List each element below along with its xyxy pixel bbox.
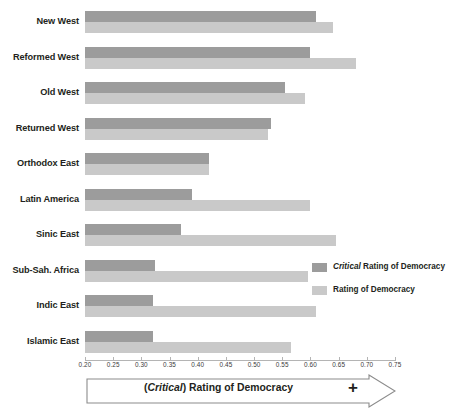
category-label: Returned West [1,123,79,134]
category-label: Old West [1,87,79,98]
bar-critical [85,189,192,200]
x-axis: 0.200.250.300.350.400.450.500.550.600.65… [85,357,396,373]
x-axis-tick-label: 0.50 [248,361,261,368]
category-axis-labels: New WestReformed WestOld WestReturned We… [0,0,79,355]
bar-rating [85,306,316,317]
bar-group [85,189,395,211]
bar-group [85,153,395,175]
x-axis-tick-label: 0.45 [219,361,232,368]
bar-critical [85,118,271,129]
x-axis-tick-label: 0.60 [304,361,317,368]
bar-critical [85,153,209,164]
category-label: Latin America [1,194,79,205]
category-label: New West [1,16,79,27]
legend-label-emphasis: Critical [333,262,361,271]
bar-critical [85,82,285,93]
category-label: Reformed West [1,52,79,63]
bar-group [85,118,395,140]
legend-swatch-rating [312,286,327,295]
legend: Critical Rating of DemocracyRating of De… [312,261,468,307]
category-label: Islamic East [1,336,79,347]
x-axis-tick-label: 0.25 [107,361,120,368]
plus-icon: + [348,379,358,397]
axis-title-arrow-banner: (Critical) Rating of Democracy + [86,374,396,408]
legend-label: Rating of Democracy [333,284,415,296]
category-label: Indic East [1,300,79,311]
bar-rating [85,235,336,246]
category-label: Orthodox East [1,158,79,169]
category-label: Sub-Sah. Africa [1,265,79,276]
legend-item: Critical Rating of Democracy [312,261,468,277]
bar-rating [85,342,291,353]
bar-group [85,11,395,33]
legend-label: Critical Rating of Democracy [333,261,445,273]
bar-rating [85,271,308,282]
bar-group [85,47,395,69]
bar-rating [85,129,268,140]
legend-swatch-critical [312,263,327,272]
bar-rating [85,164,209,175]
x-axis-tick-label: 0.35 [163,361,176,368]
x-axis-tick-label: 0.40 [191,361,204,368]
category-label: Sinic East [1,229,79,240]
bar-rating [85,22,333,33]
bar-rating [85,200,310,211]
bar-group [85,82,395,104]
x-axis-tick-label: 0.70 [360,361,373,368]
bar-critical [85,47,310,58]
bar-critical [85,331,153,342]
bar-group [85,224,395,246]
democracy-rating-chart: New WestReformed WestOld WestReturned We… [0,0,468,413]
x-axis-line [85,360,396,361]
axis-title-emphasis: Critical [147,382,182,393]
bar-rating [85,93,305,104]
legend-item: Rating of Democracy [312,284,468,300]
bar-critical [85,260,155,271]
bar-rating [85,58,356,69]
axis-title-suffix: ) Rating of Democracy [183,382,293,393]
x-axis-tick-label: 0.55 [276,361,289,368]
bar-critical [85,11,316,22]
bar-critical [85,224,181,235]
x-axis-tick-label: 0.30 [135,361,148,368]
x-axis-tick-label: 0.75 [389,361,402,368]
bar-critical [85,295,153,306]
axis-title-text: (Critical) Rating of Democracy [86,382,351,393]
x-axis-tick-label: 0.65 [332,361,345,368]
x-axis-tick-label: 0.20 [79,361,92,368]
bar-group [85,331,395,353]
